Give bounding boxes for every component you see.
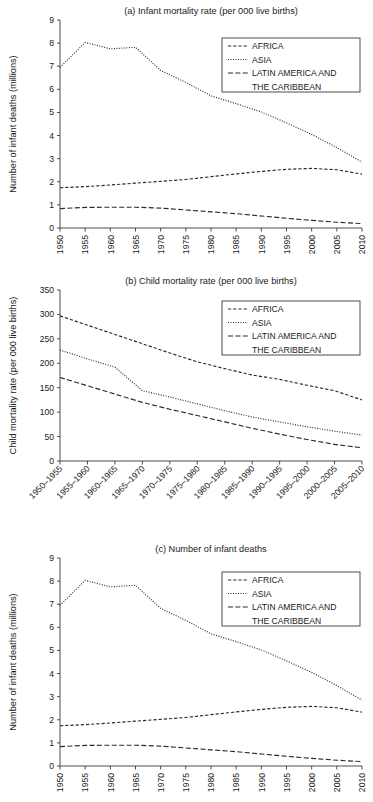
- y-tick-label: 250: [40, 334, 55, 344]
- y-tick-label: 2: [49, 177, 54, 187]
- y-tick-label: 0: [49, 456, 54, 466]
- series-line-dashdot: [60, 745, 362, 761]
- legend-label: ASIA: [252, 318, 272, 328]
- x-tick-label: 1955: [80, 235, 90, 254]
- x-tick-label: 1970: [156, 773, 166, 792]
- chart-panel-a: (a) Infant mortality rate (per 000 live …: [0, 0, 373, 270]
- y-tick-label: 0: [49, 761, 54, 771]
- y-axis-label: Child mortality rate (per 000 live birth…: [8, 297, 18, 455]
- x-tick-label: 1995: [282, 235, 292, 254]
- legend-label-continuation: THE CARIBBEAN: [252, 345, 321, 355]
- y-tick-label: 50: [44, 432, 54, 442]
- chart-panel-c: (c) Number of infant deaths0123456789195…: [0, 536, 373, 802]
- legend-label: ASIA: [252, 589, 272, 599]
- x-tick-label: 2010: [357, 773, 367, 792]
- y-tick-label: 300: [40, 309, 55, 319]
- x-tick-label: 1980: [206, 773, 216, 792]
- legend-label: LATIN AMERICA AND: [252, 602, 336, 612]
- chart-b: (b) Child mortality rate (per 000 live b…: [0, 268, 373, 536]
- y-tick-label: 3: [49, 692, 54, 702]
- x-tick-label: 1995: [282, 773, 292, 792]
- x-tick-label: 1950: [55, 773, 65, 792]
- y-tick-label: 9: [49, 15, 54, 25]
- y-tick-label: 100: [40, 407, 55, 417]
- chart-c: (c) Number of infant deaths0123456789195…: [0, 536, 373, 802]
- legend-label-continuation: THE CARIBBEAN: [252, 82, 321, 92]
- x-tick-label: 2005: [332, 235, 342, 254]
- series-line-dashed: [60, 706, 362, 725]
- chart-panel-b: (b) Child mortality rate (per 000 live b…: [0, 268, 373, 536]
- chart-a: (a) Infant mortality rate (per 000 live …: [0, 0, 373, 270]
- legend-label: AFRICA: [252, 41, 284, 51]
- y-tick-label: 150: [40, 383, 55, 393]
- y-axis-label: Number of infant deaths (millions): [8, 55, 18, 192]
- y-tick-label: 2: [49, 715, 54, 725]
- y-tick-label: 3: [49, 154, 54, 164]
- y-tick-label: 0: [49, 223, 54, 233]
- legend-label: LATIN AMERICA AND: [252, 331, 336, 341]
- y-tick-label: 7: [49, 61, 54, 71]
- x-tick-label: 1960: [106, 235, 116, 254]
- y-tick-label: 350: [40, 285, 55, 295]
- x-tick-label: 1975: [181, 235, 191, 254]
- series-line-dashed: [60, 168, 362, 187]
- figure-root: (a) Infant mortality rate (per 000 live …: [0, 0, 373, 802]
- x-tick-label: 1990: [257, 235, 267, 254]
- y-tick-label: 1: [49, 200, 54, 210]
- x-tick-label: 1975: [181, 773, 191, 792]
- y-tick-label: 8: [49, 38, 54, 48]
- chart-title: (a) Infant mortality rate (per 000 live …: [124, 6, 298, 16]
- x-tick-label: 1965: [131, 235, 141, 254]
- chart-title: (c) Number of infant deaths: [155, 544, 267, 554]
- y-tick-label: 6: [49, 84, 54, 94]
- x-tick-label: 1950: [55, 235, 65, 254]
- series-line-dashdot: [60, 377, 362, 447]
- y-tick-label: 7: [49, 599, 54, 609]
- x-tick-label: 1970: [156, 235, 166, 254]
- y-tick-label: 6: [49, 622, 54, 632]
- x-tick-label: 1990: [257, 773, 267, 792]
- x-tick-label: 1980: [206, 235, 216, 254]
- legend-label: ASIA: [252, 55, 272, 65]
- y-tick-label: 4: [49, 131, 54, 141]
- legend-label-continuation: THE CARIBBEAN: [252, 616, 321, 626]
- y-tick-label: 200: [40, 358, 55, 368]
- y-tick-label: 5: [49, 107, 54, 117]
- chart-title: (b) Child mortality rate (per 000 live b…: [125, 276, 297, 286]
- x-tick-label: 2010: [357, 235, 367, 254]
- legend-label: AFRICA: [252, 304, 284, 314]
- y-tick-label: 4: [49, 669, 54, 679]
- y-axis-label: Number of infant deaths (millions): [8, 593, 18, 730]
- series-line-dotted: [60, 350, 362, 435]
- y-tick-label: 1: [49, 738, 54, 748]
- y-tick-label: 8: [49, 576, 54, 586]
- y-tick-label: 9: [49, 553, 54, 563]
- y-tick-label: 5: [49, 645, 54, 655]
- x-tick-label: 2000: [307, 235, 317, 254]
- x-tick-label: 1985: [231, 235, 241, 254]
- x-tick-label: 1965: [131, 773, 141, 792]
- x-tick-label: 1960: [106, 773, 116, 792]
- x-tick-label: 2000: [307, 773, 317, 792]
- series-line-dashdot: [60, 207, 362, 223]
- x-tick-label: 1985: [231, 773, 241, 792]
- x-tick-label: 1955: [80, 773, 90, 792]
- x-tick-label: 2005: [332, 773, 342, 792]
- legend-label: AFRICA: [252, 575, 284, 585]
- legend-label: LATIN AMERICA AND: [252, 68, 336, 78]
